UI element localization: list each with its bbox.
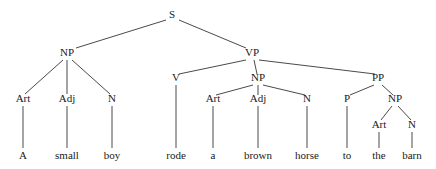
tree-edge <box>179 20 246 48</box>
tree-edge <box>259 60 375 74</box>
tree-leaf-w-to: to <box>343 149 352 161</box>
tree-leaf-w-boy: boy <box>104 149 121 161</box>
tree-node-s: S <box>169 8 175 20</box>
tree-edge <box>25 60 63 94</box>
tree-node-adj2: Adj <box>250 92 267 104</box>
tree-node-n1: N <box>108 92 116 104</box>
tree-node-pp: PP <box>372 71 384 83</box>
syntax-tree-canvas: SNPVPArtAdjNVNPPPArtAdjNPNPArtN Asmallbo… <box>0 0 436 169</box>
tree-leaf-w-a: A <box>19 149 27 161</box>
tree-edge <box>216 85 253 95</box>
tree-node-n2: N <box>303 92 311 104</box>
tree-leaf-w-barn: barn <box>402 149 422 161</box>
tree-leaf-w-a2: a <box>211 149 216 161</box>
tree-leaf-w-the: the <box>372 149 386 161</box>
tree-node-np3: NP <box>388 92 402 104</box>
tree-node-adj1: Adj <box>59 92 76 104</box>
tree-edge-layer <box>23 20 412 148</box>
tree-node-art1: Art <box>16 92 31 104</box>
tree-leaf-w-small: small <box>55 149 79 161</box>
syntax-tree-figure: SNPVPArtAdjNVNPPPArtAdjNPNPArtN Asmallbo… <box>0 0 436 169</box>
tree-node-art2: Art <box>206 92 221 104</box>
tree-edge <box>350 85 374 95</box>
tree-node-p: P <box>344 92 350 104</box>
tree-edge <box>263 85 305 95</box>
tree-node-v: V <box>172 71 180 83</box>
tree-edge <box>179 60 246 74</box>
tree-node-n3: N <box>408 118 416 130</box>
tree-leaf-w-horse: horse <box>295 149 319 161</box>
tree-node-vp: VP <box>245 46 259 58</box>
tree-leaf-w-rode: rode <box>166 149 186 161</box>
tree-leaf-layer: Asmallboyrodeabrownhorsetothebarn <box>19 149 422 161</box>
tree-node-np2: NP <box>251 71 265 83</box>
tree-node-layer: SNPVPArtAdjNVNPPPArtAdjNPNPArtN <box>16 8 416 130</box>
tree-edge <box>72 60 110 94</box>
tree-leaf-w-brown: brown <box>244 149 273 161</box>
tree-edge <box>76 20 166 48</box>
tree-node-np1: NP <box>60 46 74 58</box>
tree-node-art3: Art <box>372 118 387 130</box>
